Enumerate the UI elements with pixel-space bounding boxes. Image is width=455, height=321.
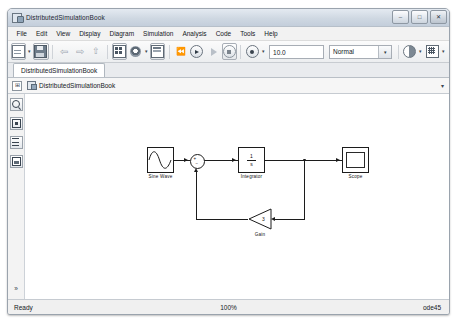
toolbar-separator xyxy=(107,45,108,59)
toolbar-separator xyxy=(52,45,53,59)
model-advisor-button[interactable] xyxy=(425,43,440,60)
breadcrumb: ⊞ DistributedSimulationBook ▾ xyxy=(8,78,449,94)
stop-icon xyxy=(223,45,236,58)
performance-dropdown-caret[interactable]: ▾ xyxy=(418,44,423,59)
signal-line-gain-to-sum xyxy=(196,219,248,220)
step-forward-button[interactable] xyxy=(245,43,260,60)
simulation-mode-value: Normal xyxy=(330,48,354,55)
model-configuration-button[interactable] xyxy=(128,43,143,60)
model-explorer-icon xyxy=(151,45,164,58)
up-to-parent-button[interactable]: ⇧ xyxy=(89,43,104,60)
menu-diagram[interactable]: Diagram xyxy=(105,27,139,40)
breadcrumb-path[interactable]: DistributedSimulationBook xyxy=(39,82,115,89)
model-canvas[interactable]: Sine Wave + − 1 s Integrator Scope xyxy=(25,94,449,299)
fast-restart-button[interactable] xyxy=(206,43,221,60)
simulink-model-icon xyxy=(12,12,23,23)
minimize-icon: – xyxy=(393,11,408,23)
sum-sign-minus: − xyxy=(196,162,199,166)
forward-button[interactable]: ⇨ xyxy=(73,43,88,60)
block-label-sine-wave: Sine Wave xyxy=(149,174,173,179)
sidebar-item-zoom-tool[interactable] xyxy=(10,98,23,111)
menu-edit[interactable]: Edit xyxy=(31,27,51,40)
gain-value: 3 xyxy=(262,216,265,222)
title-bar: DistributedSimulationBook – □ ✕ xyxy=(8,9,449,27)
stop-button[interactable] xyxy=(222,43,237,60)
block-sine-wave[interactable]: Sine Wave xyxy=(147,147,174,173)
performance-advisor-button[interactable] xyxy=(402,43,417,60)
menu-view[interactable]: View xyxy=(52,27,75,40)
tab-distributedsimulationbook[interactable]: DistributedSimulationBook xyxy=(13,63,105,77)
simulation-stop-time-input[interactable]: 10.0 xyxy=(269,45,324,59)
image-icon xyxy=(12,157,21,166)
signal-arrow-sum-feedback-input xyxy=(194,168,198,172)
status-solver[interactable]: ode45 xyxy=(423,304,441,311)
new-model-icon xyxy=(12,45,25,58)
menu-bar: File Edit View Display Diagram Simulatio… xyxy=(8,27,449,41)
sine-wave-glyph xyxy=(148,148,173,172)
library-browser-icon xyxy=(113,45,126,58)
toolbar-separator xyxy=(169,45,170,59)
block-integrator[interactable]: 1 s Integrator xyxy=(238,147,265,173)
sidebar-item-fit-width[interactable] xyxy=(10,136,23,149)
window-title: DistributedSimulationBook xyxy=(26,14,105,21)
back-arrow-icon: ⇦ xyxy=(58,46,69,57)
gain-triangle-glyph xyxy=(248,208,272,230)
model-hierarchy-icon xyxy=(27,81,36,90)
chevron-down-icon[interactable]: ▾ xyxy=(441,82,444,89)
advisor-dropdown-caret[interactable]: ▾ xyxy=(441,44,446,59)
toolbar-separator xyxy=(240,45,241,59)
new-model-dropdown-caret[interactable]: ▾ xyxy=(27,44,32,59)
configuration-dropdown-caret[interactable]: ▾ xyxy=(144,44,149,59)
menu-analysis[interactable]: Analysis xyxy=(178,27,211,40)
status-bar: Ready 100% ode45 xyxy=(8,299,449,314)
sidebar-item-fit-to-view[interactable] xyxy=(10,117,23,130)
menu-simulation[interactable]: Simulation xyxy=(139,27,178,40)
library-browser-button[interactable] xyxy=(112,43,127,60)
signal-arrow-scope-input xyxy=(336,158,340,162)
canvas-tool-sidebar: » xyxy=(8,94,25,299)
maximize-button[interactable]: □ xyxy=(411,10,428,24)
menu-help[interactable]: Help xyxy=(260,27,282,40)
save-button[interactable] xyxy=(33,43,48,60)
signal-arrow-integrator-input xyxy=(232,158,236,162)
close-icon: ✕ xyxy=(431,11,446,23)
menu-display[interactable]: Display xyxy=(75,27,105,40)
save-icon xyxy=(34,45,47,58)
integrator-denominator: s xyxy=(250,162,253,167)
rewind-icon: ⏪ xyxy=(175,46,186,57)
block-gain[interactable]: 3 Gain xyxy=(248,208,272,230)
signal-line-to-gain-input xyxy=(273,219,305,220)
minimize-button[interactable]: – xyxy=(392,10,409,24)
performance-advisor-icon xyxy=(403,45,416,58)
status-zoom-level[interactable]: 100% xyxy=(220,304,237,311)
block-scope[interactable]: Scope xyxy=(342,147,369,173)
menu-file[interactable]: File xyxy=(12,27,31,40)
simulation-mode-select[interactable]: Normal ▾ xyxy=(329,45,392,59)
fit-width-icon xyxy=(12,138,19,146)
sidebar-item-model-browser[interactable] xyxy=(10,155,23,168)
new-model-button[interactable] xyxy=(11,43,26,60)
run-button[interactable] xyxy=(189,43,204,60)
step-dropdown-caret[interactable]: ▾ xyxy=(261,44,266,59)
gear-icon xyxy=(130,46,141,57)
block-label-scope: Scope xyxy=(348,174,362,179)
block-label-integrator: Integrator xyxy=(241,174,263,179)
back-button[interactable]: ⇦ xyxy=(56,43,71,60)
tab-strip: DistributedSimulationBook xyxy=(8,63,449,78)
menu-code[interactable]: Code xyxy=(211,27,236,40)
magnifier-icon xyxy=(12,100,20,108)
menu-tools[interactable]: Tools xyxy=(236,27,260,40)
sidebar-more-tools[interactable]: » xyxy=(14,285,18,293)
chevron-down-icon[interactable]: ▾ xyxy=(378,46,391,58)
close-button[interactable]: ✕ xyxy=(430,10,447,24)
block-sum[interactable]: + − xyxy=(190,154,205,169)
work-area: » S xyxy=(8,94,449,299)
signal-arrow-sum-input xyxy=(184,158,188,162)
rewind-button[interactable]: ⏪ xyxy=(173,43,188,60)
simulink-model-window: DistributedSimulationBook – □ ✕ File Edi… xyxy=(7,8,450,315)
expand-hierarchy-icon[interactable]: ⊞ xyxy=(12,81,22,91)
model-explorer-button[interactable] xyxy=(150,43,165,60)
block-label-gain: Gain xyxy=(255,232,266,237)
fit-to-view-icon xyxy=(12,119,21,128)
step-forward-icon xyxy=(246,45,259,58)
